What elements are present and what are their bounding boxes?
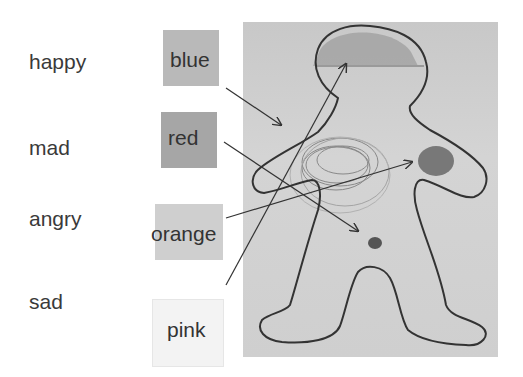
blue-mark <box>313 33 418 66</box>
arrow-pink <box>226 64 346 285</box>
arrow-red <box>224 142 358 231</box>
gingerbread-outline <box>253 26 487 346</box>
red-mark <box>368 237 382 249</box>
orange-mark <box>418 146 454 176</box>
arrow-blue <box>226 88 281 125</box>
pink-scribble <box>290 137 390 213</box>
body-outline-and-arrows <box>0 0 523 377</box>
